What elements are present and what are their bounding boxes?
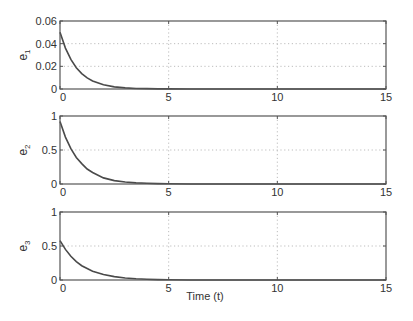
y-tick-label: 0.5 [42,144,57,156]
y-axis-label: e2 [16,144,32,156]
y-tick-label: 0.02 [36,60,57,72]
x-tick-label: 0 [60,186,66,198]
y-tick-label: 0.06 [36,15,57,27]
y-axis-label: e1 [16,49,32,61]
y-tick-label: 1 [51,206,57,218]
series-line-e1 [60,32,386,89]
x-tick-label: 5 [166,186,172,198]
y-tick-label: 0 [51,274,57,286]
figure: 00.020.040.06051015e1 00.51051015e2 00.5… [0,0,413,321]
x-tick-label: 5 [166,282,172,294]
x-tick-label: 10 [271,282,283,294]
x-axis-label: Time (t) [186,290,223,302]
y-tick-label: 0 [51,83,57,95]
x-tick-label: 15 [380,91,392,103]
axes-frame [60,212,386,280]
series-line-e3 [60,241,386,280]
y-tick-label: 0.5 [42,240,57,252]
axes-frame [60,21,386,89]
y-axis-label: e3 [16,240,32,252]
y-tick-label: 0.04 [36,38,57,50]
subplot-e3: 00.51051015e3 [16,206,392,294]
y-tick-label: 1 [51,110,57,122]
x-tick-label: 0 [60,282,66,294]
x-tick-label: 10 [271,186,283,198]
subplot-e1: 00.020.040.06051015e1 [16,15,392,103]
x-tick-label: 15 [380,186,392,198]
y-tick-label: 0 [51,178,57,190]
axes-frame [60,116,386,184]
subplot-e2: 00.51051015e2 [16,110,392,198]
x-tick-label: 0 [60,91,66,103]
x-tick-label: 5 [166,91,172,103]
series-line-e2 [60,121,386,184]
x-tick-label: 15 [380,282,392,294]
x-tick-label: 10 [271,91,283,103]
